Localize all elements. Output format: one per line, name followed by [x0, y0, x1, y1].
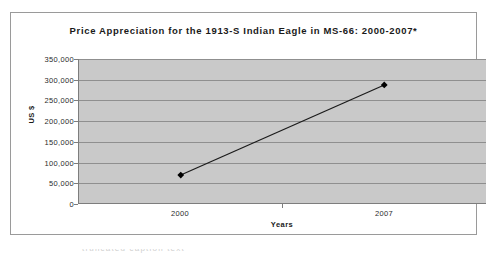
x-axis-title: Years — [78, 220, 486, 229]
footnote-text: truncated caption text — [82, 249, 185, 253]
y-tick-mark — [74, 204, 78, 205]
x-tick-label-2000: 2000 — [171, 209, 189, 218]
chart-figure: Price Appreciation for the 1913-S Indian… — [10, 12, 477, 235]
series-line-segment — [181, 85, 385, 175]
chart-title: Price Appreciation for the 1913-S Indian… — [11, 25, 476, 36]
data-point-marker-2000 — [177, 172, 184, 179]
y-axis-tick-marks — [11, 59, 81, 204]
plot-area — [78, 59, 486, 204]
data-point-marker-2007 — [381, 82, 388, 89]
data-series-line — [79, 59, 486, 203]
x-tick-label-2007: 2007 — [375, 209, 393, 218]
x-axis-category-divider — [282, 204, 283, 208]
footnote-strip: truncated caption text — [10, 249, 477, 261]
